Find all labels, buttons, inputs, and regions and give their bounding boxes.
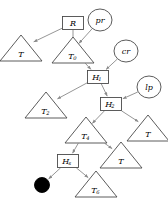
node-H1[interactable]: H1 bbox=[88, 71, 109, 84]
node-label-lp: lp bbox=[145, 83, 153, 92]
node-label-T_c: T bbox=[118, 157, 124, 166]
edge-T0-to-H1 bbox=[85, 63, 91, 69]
edge-T4-to-Hs bbox=[73, 143, 79, 153]
node-label-R: R bbox=[69, 19, 76, 28]
node-cr[interactable]: cr bbox=[114, 40, 138, 62]
node-dot[interactable] bbox=[35, 178, 50, 193]
node-T4[interactable]: T4 bbox=[65, 117, 107, 143]
filled-dot-shape bbox=[35, 178, 50, 193]
node-sublabel-Hs: s bbox=[69, 160, 72, 166]
node-T2[interactable]: T2 bbox=[25, 92, 67, 118]
node-sublabel-H1: 1 bbox=[98, 76, 101, 82]
node-lp[interactable]: lp bbox=[137, 76, 161, 98]
edge-cr-to-H1 bbox=[106, 59, 117, 69]
node-T_c[interactable]: T bbox=[100, 142, 142, 168]
edge-H2-to-T_b bbox=[121, 111, 138, 122]
edge-Hs-to-dot bbox=[49, 168, 61, 179]
diagram-canvas: RprTT0crH1lpT2H2T4THsTT6 bbox=[0, 0, 168, 200]
edge-lp-to-H2 bbox=[123, 92, 138, 99]
node-H2[interactable]: H2 bbox=[101, 98, 122, 111]
node-T0[interactable]: T0 bbox=[52, 37, 94, 63]
node-sublabel-T2: 2 bbox=[45, 110, 49, 116]
node-label-T_a: T bbox=[18, 50, 24, 59]
node-sublabel-H2: 2 bbox=[110, 103, 114, 109]
edge-Hs-to-T6 bbox=[76, 168, 88, 178]
diagram-svg: RprTT0crH1lpT2H2T4THsTT6 bbox=[0, 0, 168, 200]
node-T6[interactable]: T6 bbox=[75, 171, 117, 197]
edge-H1-to-T2 bbox=[57, 83, 87, 99]
node-pr[interactable]: pr bbox=[88, 9, 112, 31]
edge-H1-to-H2 bbox=[101, 84, 107, 96]
node-label-cr: cr bbox=[122, 47, 131, 56]
node-sublabel-T4: 4 bbox=[85, 135, 89, 141]
node-T_a[interactable]: T bbox=[0, 35, 42, 61]
node-Hs[interactable]: Hs bbox=[58, 155, 79, 168]
node-label-T_b: T bbox=[145, 130, 151, 139]
node-R[interactable]: R bbox=[63, 17, 84, 30]
edge-H2-to-T4 bbox=[92, 111, 104, 124]
edge-T4-to-T_c bbox=[105, 143, 113, 148]
node-label-pr: pr bbox=[96, 16, 106, 25]
edge-R-to-T_a bbox=[34, 28, 62, 42]
edge-pr-to-T0 bbox=[79, 29, 92, 44]
